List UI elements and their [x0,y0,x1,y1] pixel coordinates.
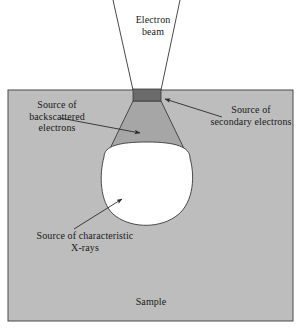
secondary-electron-region [133,89,161,101]
label-secondary-electrons: Source of secondary electrons [205,104,297,127]
label-sample: Sample [118,296,184,308]
label-backscattered-electrons: Source of backscattered electrons [9,99,105,134]
characteristic-xray-region [101,142,192,225]
electron-beam-interaction-diagram: Electron beam Source of backscattered el… [0,0,301,334]
label-electron-beam: Electron beam [122,14,184,37]
diagram-canvas [0,0,301,334]
label-characteristic-xrays: Source of characteristic X-rays [20,230,150,253]
